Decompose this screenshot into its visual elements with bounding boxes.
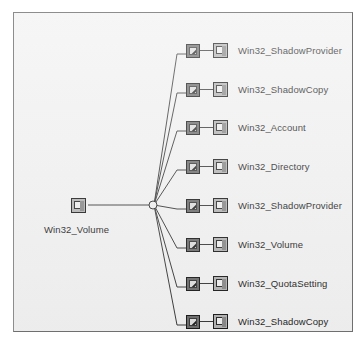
wmi-class-icon[interactable] xyxy=(213,276,228,291)
wmi-class-icon[interactable] xyxy=(213,43,228,58)
class-row-label: Win32_Directory xyxy=(238,161,310,172)
class-row-label: Win32_QuotaSetting xyxy=(238,278,327,289)
wmi-association-icon[interactable] xyxy=(186,44,200,58)
wmi-association-icon[interactable] xyxy=(186,315,200,329)
edge-hub-to-row-5 xyxy=(154,205,186,209)
wmi-class-icon[interactable] xyxy=(213,198,228,213)
connector-stub xyxy=(200,166,213,167)
class-row[interactable]: Win32_ShadowCopy xyxy=(186,82,328,97)
class-row[interactable]: Win32_QuotaSetting xyxy=(186,276,327,291)
class-row-label: Win32_Account xyxy=(238,122,306,133)
class-row-label: Win32_ShadowCopy xyxy=(238,316,328,327)
class-row[interactable]: Win32_ShadowCopy xyxy=(186,314,328,329)
wmi-class-icon[interactable] xyxy=(213,120,228,135)
class-row-label: Win32_ShadowProvider xyxy=(238,200,342,211)
class-row[interactable]: Win32_ShadowProvider xyxy=(186,43,342,58)
hub-junction-node xyxy=(149,201,157,209)
connector-stub xyxy=(200,50,213,51)
edge-hub-to-row-3 xyxy=(154,131,186,205)
wmi-class-icon[interactable] xyxy=(213,82,228,97)
class-row[interactable]: Win32_Directory xyxy=(186,159,310,174)
class-row-label: Win32_ShadowProvider xyxy=(238,45,342,56)
wmi-class-icon xyxy=(71,198,86,213)
root-node[interactable] xyxy=(71,198,86,213)
diagram-canvas: Win32_Volume Win32_ShadowProvider Win32_… xyxy=(0,0,364,345)
diagram-frame: Win32_Volume Win32_ShadowProvider Win32_… xyxy=(13,12,353,332)
wmi-association-icon[interactable] xyxy=(186,277,200,291)
wmi-association-icon[interactable] xyxy=(186,199,200,213)
wmi-association-icon[interactable] xyxy=(186,83,200,97)
wmi-class-icon[interactable] xyxy=(213,159,228,174)
connector-stub xyxy=(200,244,213,245)
class-row[interactable]: Win32_ShadowProvider xyxy=(186,198,342,213)
wmi-class-icon[interactable] xyxy=(213,314,228,329)
wmi-association-icon[interactable] xyxy=(186,238,200,252)
edge-hub-to-row-6 xyxy=(154,205,186,248)
class-row[interactable]: Win32_Account xyxy=(186,120,306,135)
connector-stub xyxy=(200,127,213,128)
connector-stub xyxy=(200,283,213,284)
class-row-label: Win32_ShadowCopy xyxy=(238,84,328,95)
class-row-label: Win32_Volume xyxy=(238,239,303,250)
connector-stub xyxy=(200,205,213,206)
root-node-label: Win32_Volume xyxy=(44,224,109,235)
connector-stub xyxy=(200,321,213,322)
connector-stub xyxy=(200,89,213,90)
edge-hub-to-row-7 xyxy=(154,205,186,287)
wmi-association-icon[interactable] xyxy=(186,160,200,174)
wmi-association-icon[interactable] xyxy=(186,121,200,135)
wmi-class-icon[interactable] xyxy=(213,237,228,252)
class-row[interactable]: Win32_Volume xyxy=(186,237,303,252)
